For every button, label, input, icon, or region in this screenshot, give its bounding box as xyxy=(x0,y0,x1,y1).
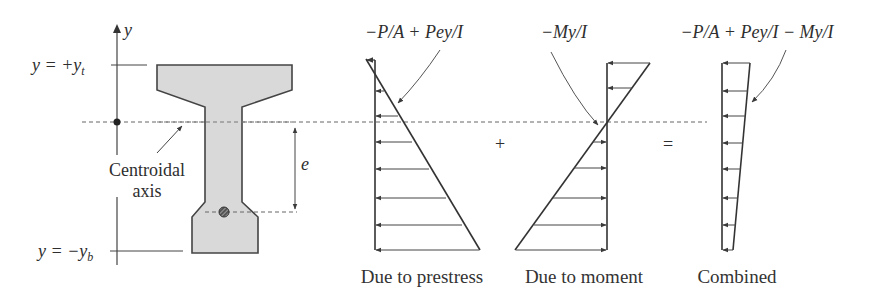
prestress-formula: −P/A + Pey/I xyxy=(365,22,464,42)
equals-operator: = xyxy=(663,134,673,154)
y-axis xyxy=(110,24,183,265)
combined-stress-diagram xyxy=(722,63,750,250)
eccentricity-label: e xyxy=(301,154,309,174)
figure-canvas: y y = +yt y = −yb e Centroidal axis −P/A… xyxy=(0,0,880,305)
bottom-fiber-label: y = −yb xyxy=(36,241,93,264)
moment-formula-leader xyxy=(551,52,598,125)
prestress-stress-diagram xyxy=(366,59,480,250)
plus-operator: + xyxy=(495,134,505,154)
prestress-formula-leader xyxy=(398,50,440,103)
moment-caption: Due to moment xyxy=(525,266,644,287)
prestress-caption: Due to prestress xyxy=(361,266,483,287)
i-beam-section xyxy=(157,65,292,253)
moment-formula: −My/I xyxy=(541,22,588,42)
combined-formula: −P/A + Pey/I − My/I xyxy=(680,22,834,42)
centroidal-axis-label-line2: axis xyxy=(133,181,162,201)
moment-stress-diagram xyxy=(515,63,650,250)
y-axis-label: y xyxy=(122,20,132,40)
combined-formula-leader xyxy=(752,50,786,102)
tendon-icon xyxy=(219,207,229,217)
y-axis-arrow-icon xyxy=(113,24,121,33)
origin-dot xyxy=(114,119,121,126)
combined-caption: Combined xyxy=(697,266,777,287)
centroidal-axis-leader xyxy=(157,126,182,153)
centroidal-axis-label-line1: Centroidal xyxy=(109,160,185,180)
top-fiber-label: y = +yt xyxy=(30,55,85,78)
stress-distribution-figure: y y = +yt y = −yb e Centroidal axis −P/A… xyxy=(0,0,880,305)
